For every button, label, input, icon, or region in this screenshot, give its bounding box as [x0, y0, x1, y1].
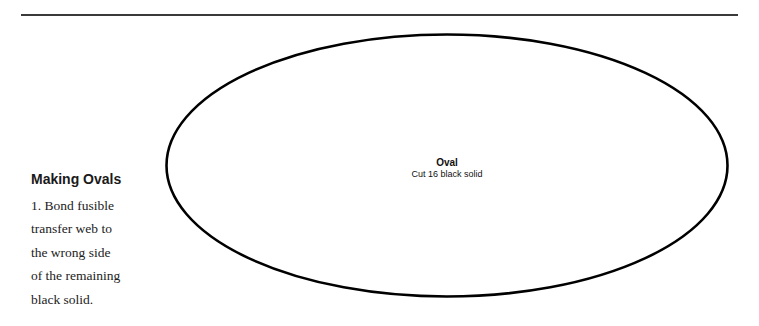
- instruction-step-1: 1. Bond fusible transfer web to the wron…: [31, 194, 171, 311]
- step-number: 1.: [31, 198, 41, 213]
- oval-label: Oval Cut 16 black solid: [377, 157, 517, 180]
- oval-cut-instruction: Cut 16 black solid: [377, 169, 517, 180]
- step-line: of the remaining: [31, 268, 120, 283]
- section-heading: Making Ovals: [31, 171, 121, 187]
- step-line: the wrong side: [31, 245, 110, 260]
- step-line: Bond fusible: [45, 198, 114, 213]
- step-line: transfer web to: [31, 221, 112, 236]
- oval-label-title: Oval: [377, 157, 517, 169]
- step-line: black solid.: [31, 292, 93, 307]
